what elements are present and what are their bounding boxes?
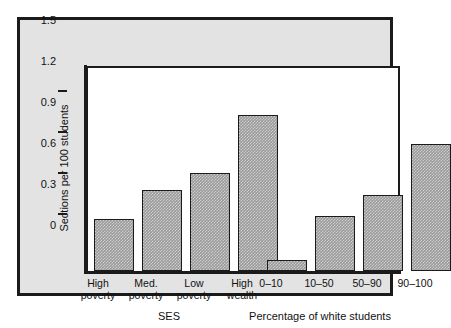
x-label-med-poverty: Med. poverty: [120, 277, 172, 301]
x-label-high-poverty: High poverty: [72, 277, 124, 301]
bar-50-90[interactable]: [363, 195, 403, 272]
y-tick-label-1_5: 1.5: [30, 14, 56, 26]
y-tick-mark-0_6: [58, 172, 67, 174]
group-title-percentage-white-students: Percentage of white students: [242, 310, 398, 322]
y-tick-label-1_2: 1.2: [30, 55, 56, 67]
chart-frame: Sections per 100 students 1.5 1.2 0.9 0.…: [17, 17, 393, 296]
x-label-50-90: 50–90: [341, 277, 393, 289]
y-axis-title: Sections per 100 students: [58, 88, 70, 248]
bar-high-wealth[interactable]: [238, 115, 278, 271]
y-tick-label-0_9: 0.9: [30, 96, 56, 108]
y-tick-label-0_6: 0.6: [30, 137, 56, 149]
bars-layer: [86, 66, 400, 271]
y-tick-mark-1_2: [58, 90, 67, 92]
bar-low-poverty[interactable]: [190, 173, 230, 271]
group-title-ses: SES: [94, 310, 244, 322]
x-label-90-100: 90–100: [389, 277, 441, 289]
bar-0-10[interactable]: [267, 260, 307, 271]
bar-high-poverty[interactable]: [94, 219, 134, 271]
x-label-0-10: 0–10: [245, 277, 297, 289]
x-label-10-50: 10–50: [293, 277, 345, 289]
y-tick-label-0: 0: [30, 219, 56, 231]
y-tick-mark-0_3: [58, 213, 67, 215]
bar-10-50[interactable]: [315, 216, 355, 271]
y-tick-label-0_3: 0.3: [30, 178, 56, 190]
bar-med-poverty[interactable]: [142, 190, 182, 271]
y-tick-mark-0_9: [58, 131, 67, 133]
bar-90-100[interactable]: [411, 144, 451, 271]
x-label-low-poverty: Low poverty: [168, 277, 220, 301]
